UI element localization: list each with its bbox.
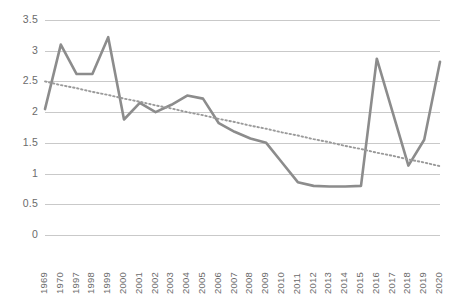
x-axis-tick-label: 2003	[164, 272, 178, 294]
x-axis-tick-label: 2010	[275, 272, 289, 294]
x-axis-tick-label: 1970	[54, 272, 68, 294]
gridline	[45, 204, 440, 205]
x-axis-tick-label: 2008	[243, 272, 257, 294]
x-axis-tick-label: 2013	[322, 272, 336, 294]
x-axis-tick-label: 2015	[354, 272, 368, 294]
gridline	[45, 51, 440, 52]
y-axis-tick-label: 2.5	[2, 74, 38, 86]
x-axis-tick-label: 2017	[386, 272, 400, 294]
y-axis-tick-label: 3	[2, 44, 38, 56]
x-axis-tick-label: 2011	[291, 273, 305, 294]
gridline	[45, 235, 440, 236]
x-axis-tick-label: 1998	[85, 272, 99, 294]
x-axis-tick-label: 2005	[196, 272, 210, 294]
y-axis-tick-label: 0.5	[2, 197, 38, 209]
x-axis-tick-label: 2018	[401, 272, 415, 294]
x-axis-tick-label: 2006	[212, 272, 226, 294]
gridline	[45, 174, 440, 175]
x-axis-tick-label: 2009	[259, 272, 273, 294]
x-axis-tick-label: 2004	[180, 272, 194, 294]
y-axis-tick-label: 2	[2, 105, 38, 117]
x-axis-tick-label: 1999	[101, 272, 115, 294]
x-axis-tick-label: 1997	[70, 272, 84, 294]
y-axis-tick-label: 0	[2, 228, 38, 240]
x-axis-tick-label: 2007	[228, 272, 242, 294]
gridline	[45, 81, 440, 82]
gridline	[45, 143, 440, 144]
x-axis-tick-label: 2020	[433, 272, 447, 294]
x-axis-tick-label: 2019	[417, 272, 431, 294]
x-axis-tick-label: 2016	[370, 272, 384, 294]
y-axis-tick-label: 1.5	[2, 136, 38, 148]
x-axis-tick-label: 2001	[133, 272, 147, 294]
y-axis-tick-label: 1	[2, 167, 38, 179]
x-axis-tick-label: 2014	[338, 272, 352, 294]
plot-area	[45, 20, 440, 235]
x-axis-tick-label: 1969	[38, 272, 52, 294]
x-axis-tick-label: 2012	[307, 272, 321, 294]
gridline	[45, 20, 440, 21]
x-axis-tick-label: 2000	[117, 272, 131, 294]
x-axis-tick-label: 2002	[149, 272, 163, 294]
y-axis-tick-label: 3.5	[2, 13, 38, 25]
gridline	[45, 112, 440, 113]
line-chart: 3.532.521.510.50 19691970199719981999200…	[0, 0, 461, 297]
